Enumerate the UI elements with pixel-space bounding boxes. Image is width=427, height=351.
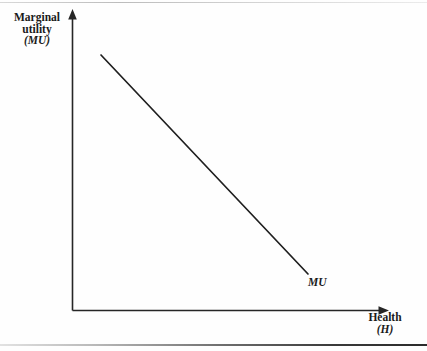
y-axis-title: Marginal utility (MU) [8, 12, 66, 47]
mu-curve-label: MU [308, 277, 327, 289]
x-axis-title-symbol: (H) [352, 324, 418, 336]
y-axis-arrowhead-icon [68, 9, 77, 20]
x-axis-title: Health (H) [352, 312, 418, 335]
figure-page: Marginal utility (MU) Health (H) MU [0, 0, 427, 351]
chart-canvas [0, 0, 427, 351]
page-bottom-rule [0, 344, 427, 346]
x-axis-title-line1: Health [352, 312, 418, 324]
y-axis-title-line1: Marginal [8, 12, 66, 24]
y-axis [68, 9, 77, 311]
y-axis-title-symbol: (MU) [8, 35, 66, 47]
mu-curve-line [101, 55, 308, 274]
x-axis [73, 306, 390, 315]
